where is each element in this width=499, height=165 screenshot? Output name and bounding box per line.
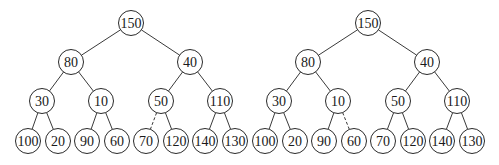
tree-node-20: 20 bbox=[46, 129, 71, 154]
node-label: 120 bbox=[403, 134, 424, 149]
tree-node-150: 150 bbox=[356, 11, 381, 36]
edge-80-30 bbox=[286, 72, 300, 91]
node-label: 70 bbox=[139, 134, 153, 149]
tree-node-70: 70 bbox=[134, 129, 159, 154]
tree-node-100: 100 bbox=[253, 129, 278, 154]
edge-150-80 bbox=[81, 30, 120, 55]
tree-node-120: 120 bbox=[164, 129, 189, 154]
edge-30-20 bbox=[47, 113, 54, 130]
edge-30-20 bbox=[284, 113, 291, 130]
node-label: 90 bbox=[80, 134, 94, 149]
node-label: 110 bbox=[447, 94, 467, 109]
edge-110-140 bbox=[446, 113, 452, 130]
edge-110-140 bbox=[209, 113, 215, 130]
tree-node-110: 110 bbox=[208, 89, 233, 114]
node-label: 150 bbox=[121, 16, 142, 31]
edge-10-90 bbox=[91, 113, 97, 129]
edge-110-130 bbox=[461, 113, 467, 130]
tree-node-130: 130 bbox=[223, 129, 248, 154]
edge-40-50 bbox=[405, 72, 419, 91]
tree-node-110: 110 bbox=[445, 89, 470, 114]
node-label: 30 bbox=[272, 94, 286, 109]
node-label: 90 bbox=[317, 134, 331, 149]
edge-50-120 bbox=[165, 113, 171, 130]
node-label: 50 bbox=[391, 94, 405, 109]
tree-node-150: 150 bbox=[119, 11, 144, 36]
right-tree-edges bbox=[269, 30, 467, 130]
node-label: 50 bbox=[154, 94, 168, 109]
node-label: 60 bbox=[347, 134, 361, 149]
node-label: 70 bbox=[376, 134, 390, 149]
edge-30-100 bbox=[269, 113, 275, 129]
node-label: 60 bbox=[110, 134, 124, 149]
edge-150-80 bbox=[318, 30, 357, 55]
edge-40-50 bbox=[168, 72, 182, 91]
node-label: 80 bbox=[301, 55, 315, 70]
tree-node-90: 90 bbox=[312, 129, 337, 154]
edge-50-70 bbox=[387, 113, 393, 130]
tree-node-10: 10 bbox=[326, 89, 351, 114]
tree-node-140: 140 bbox=[193, 129, 218, 154]
tree-node-60: 60 bbox=[342, 129, 367, 154]
node-label: 20 bbox=[288, 134, 302, 149]
edge-30-100 bbox=[32, 113, 38, 129]
node-label: 130 bbox=[462, 134, 483, 149]
tree-node-80: 80 bbox=[59, 50, 84, 75]
node-label: 100 bbox=[18, 134, 39, 149]
node-label: 80 bbox=[64, 55, 78, 70]
node-label: 140 bbox=[432, 134, 453, 149]
tree-node-80: 80 bbox=[296, 50, 321, 75]
node-label: 110 bbox=[210, 94, 230, 109]
node-label: 140 bbox=[195, 134, 216, 149]
node-label: 10 bbox=[94, 94, 108, 109]
edge-50-120 bbox=[402, 113, 408, 130]
node-label: 20 bbox=[51, 134, 65, 149]
edge-110-130 bbox=[224, 113, 230, 130]
binary-trees-diagram: 150804030105011010020906070120140130 150… bbox=[0, 0, 499, 165]
tree-node-50: 50 bbox=[149, 89, 174, 114]
tree-node-50: 50 bbox=[386, 89, 411, 114]
left-tree-edges bbox=[32, 30, 230, 130]
node-label: 40 bbox=[183, 55, 197, 70]
tree-node-100: 100 bbox=[16, 129, 41, 154]
node-label: 10 bbox=[331, 94, 345, 109]
tree-node-20: 20 bbox=[283, 129, 308, 154]
node-label: 40 bbox=[420, 55, 434, 70]
left-tree-nodes: 150804030105011010020906070120140130 bbox=[16, 11, 248, 154]
edge-10-90 bbox=[328, 113, 334, 129]
edge-80-10 bbox=[79, 72, 94, 91]
node-label: 150 bbox=[358, 16, 379, 31]
node-label: 120 bbox=[166, 134, 187, 149]
tree-node-120: 120 bbox=[401, 129, 426, 154]
tree-node-40: 40 bbox=[178, 50, 203, 75]
edge-80-10 bbox=[316, 72, 331, 91]
tree-node-70: 70 bbox=[371, 129, 396, 154]
tree-node-10: 10 bbox=[89, 89, 114, 114]
edge-40-110 bbox=[198, 72, 213, 91]
edge-80-30 bbox=[49, 72, 63, 91]
tree-node-60: 60 bbox=[105, 129, 130, 154]
tree-node-130: 130 bbox=[460, 129, 485, 154]
tree-node-30: 30 bbox=[267, 89, 292, 114]
left-tree: 150804030105011010020906070120140130 bbox=[16, 11, 248, 154]
edge-10-60 bbox=[106, 113, 113, 130]
edge-40-110 bbox=[435, 72, 450, 91]
edge-150-40 bbox=[141, 30, 179, 55]
node-label: 30 bbox=[35, 94, 49, 109]
tree-node-140: 140 bbox=[430, 129, 455, 154]
tree-node-90: 90 bbox=[75, 129, 100, 154]
edge-50-70-dashed bbox=[150, 113, 156, 130]
tree-node-40: 40 bbox=[415, 50, 440, 75]
right-tree-nodes: 150804030105011010020906070120140130 bbox=[253, 11, 485, 154]
edge-150-40 bbox=[378, 30, 416, 55]
edge-10-60-dashed bbox=[343, 113, 350, 130]
node-label: 130 bbox=[225, 134, 246, 149]
tree-node-30: 30 bbox=[30, 89, 55, 114]
right-tree: 150804030105011010020906070120140130 bbox=[253, 11, 485, 154]
node-label: 100 bbox=[255, 134, 276, 149]
